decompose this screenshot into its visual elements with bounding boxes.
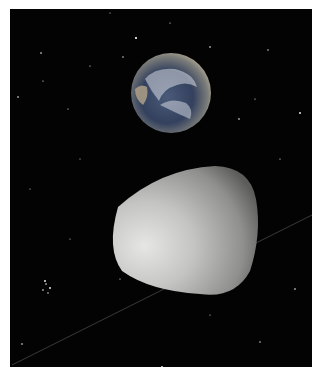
asteroid: [113, 166, 258, 295]
space-scene: [10, 9, 312, 367]
earth: [131, 53, 211, 133]
scene-graphic: [10, 9, 312, 367]
